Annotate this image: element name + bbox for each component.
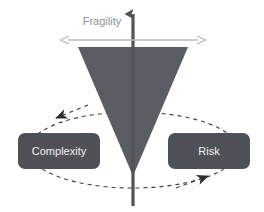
node-risk[interactable]: Risk	[168, 133, 250, 169]
risk-label: Risk	[198, 145, 220, 157]
complexity-label: Complexity	[32, 145, 87, 157]
diagram-canvas: Fragility Complexity Risk	[0, 0, 264, 212]
node-complexity[interactable]: Complexity	[18, 133, 100, 169]
loop-arrow-right	[176, 176, 208, 188]
fragility-label: Fragility	[83, 15, 122, 27]
diagram-svg: Fragility Complexity Risk	[0, 0, 264, 212]
